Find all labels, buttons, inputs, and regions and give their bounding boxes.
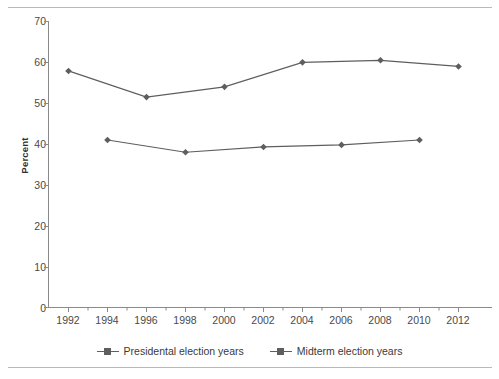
chart-figure: Percent 70 60 50 40 30 20 10 0 1992 1994… [0,0,499,379]
legend-label-midterm: Midterm election years [297,345,403,357]
data-point-marker [143,94,150,101]
data-point-marker [455,63,462,70]
plot-area: Percent 70 60 50 40 30 20 10 0 1992 1994… [0,0,499,379]
data-point-marker [65,68,72,75]
legend-item-midterm[interactable]: Midterm election years [270,345,403,357]
data-point-marker [182,149,189,156]
data-point-marker [416,137,423,144]
chart-legend: Presidental election years Midterm elect… [0,345,499,357]
data-point-marker [221,84,228,91]
data-point-marker [338,142,345,149]
data-point-marker [104,137,111,144]
legend-label-presidential: Presidental election years [124,345,244,357]
data-point-marker [377,57,384,64]
data-point-marker [299,59,306,66]
series-midterm [104,137,423,156]
y-tick-marks [44,22,49,308]
series-presidential [65,57,462,100]
legend-marker-midterm-icon [270,346,292,356]
series-layer [65,57,462,156]
data-point-marker [260,144,267,151]
x-tick-marks [69,308,459,313]
series-line [69,60,459,97]
legend-marker-presidential-icon [97,346,119,356]
legend-item-presidential[interactable]: Presidental election years [97,345,244,357]
chart-canvas [0,0,499,379]
